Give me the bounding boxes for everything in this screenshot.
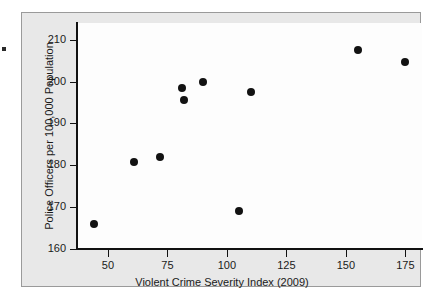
x-tick-mark — [108, 250, 109, 257]
x-tick-mark — [286, 250, 287, 257]
y-axis-line — [76, 22, 78, 250]
data-point — [235, 207, 243, 215]
x-tick-label: 75 — [147, 260, 187, 271]
y-tick-mark — [70, 207, 77, 208]
x-tick-mark — [227, 250, 228, 257]
y-tick-mark — [70, 82, 77, 83]
x-tick-mark — [405, 250, 406, 257]
y-axis-title: Police Officers per 100,000 Population — [43, 36, 55, 236]
x-axis-line — [76, 248, 423, 250]
data-point — [247, 88, 255, 96]
data-point — [90, 220, 98, 228]
data-point — [178, 84, 186, 92]
x-tick-label: 100 — [207, 260, 247, 271]
y-tick-mark — [70, 165, 77, 166]
y-tick-mark — [70, 123, 77, 124]
x-tick-label: 50 — [88, 260, 128, 271]
scatter-chart-figure: 160170180190200210 5075100125150175 Viol… — [21, 12, 421, 287]
x-tick-mark — [346, 250, 347, 257]
x-tick-mark — [167, 250, 168, 257]
scan-artifact-speck — [2, 47, 6, 51]
y-tick-mark — [70, 40, 77, 41]
y-tick-label: 160 — [26, 243, 66, 254]
y-tick-mark — [70, 249, 77, 250]
x-tick-label: 125 — [266, 260, 306, 271]
data-point — [156, 153, 164, 161]
plot-area — [77, 23, 422, 249]
data-point — [354, 46, 362, 54]
x-tick-label: 150 — [326, 260, 366, 271]
x-tick-label: 175 — [385, 260, 425, 271]
x-axis-title: Violent Crime Severity Index (2009) — [22, 276, 422, 288]
